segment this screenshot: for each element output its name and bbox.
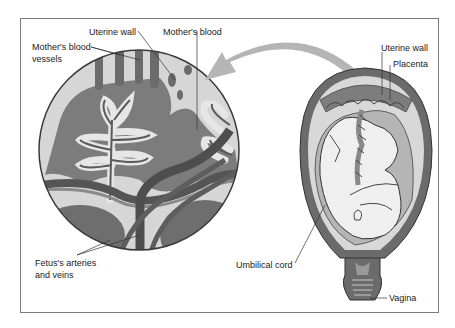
magnified-placenta-view <box>35 48 250 270</box>
label-mothers-blood: Mother's blood <box>163 27 222 38</box>
label-mothers-blood-vessels-line2: vessels <box>32 54 62 65</box>
label-placenta: Placenta <box>393 59 428 70</box>
label-uterine-wall: Uterine wall <box>381 43 428 54</box>
label-umbilical-cord: Umbilical cord <box>236 260 293 271</box>
label-uterine-wall-magnified: Uterine wall <box>89 27 136 38</box>
label-mothers-blood-vessels-line1: Mother's blood <box>32 42 91 53</box>
uterus-with-fetus <box>300 68 432 300</box>
label-vagina: Vagina <box>389 293 416 304</box>
label-fetus-vessels-line2: and veins <box>35 270 74 281</box>
label-fetus-vessels-line1: Fetus's arteries <box>35 258 96 269</box>
